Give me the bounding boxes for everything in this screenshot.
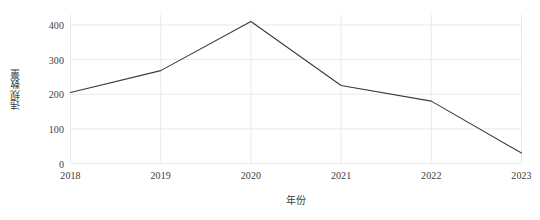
chart-figure: 0100200300400 201820192020202120222023 违… xyxy=(0,0,540,220)
x-axis-title: 年份 xyxy=(286,192,307,207)
line-chart-plot xyxy=(0,0,540,220)
x-axis-tick-label: 2023 xyxy=(511,170,531,181)
y-axis-tick-label: 100 xyxy=(30,123,64,134)
y-axis-title: 违规数量 xyxy=(8,68,23,110)
y-axis-tick-label: 0 xyxy=(30,158,64,169)
x-axis-tick-label: 2020 xyxy=(241,170,261,181)
x-axis-tick-label: 2021 xyxy=(331,170,351,181)
x-axis-tick-label: 2018 xyxy=(60,170,80,181)
y-axis-tick-label: 400 xyxy=(30,19,64,30)
horizontal-gridlines xyxy=(71,25,522,164)
vertical-gridlines xyxy=(71,15,522,164)
x-axis-tick-label: 2019 xyxy=(150,170,170,181)
y-axis-tick-label: 300 xyxy=(30,54,64,65)
y-axis-tick-label: 200 xyxy=(30,89,64,100)
data-series-line xyxy=(71,21,522,153)
x-axis-tick-label: 2022 xyxy=(421,170,441,181)
